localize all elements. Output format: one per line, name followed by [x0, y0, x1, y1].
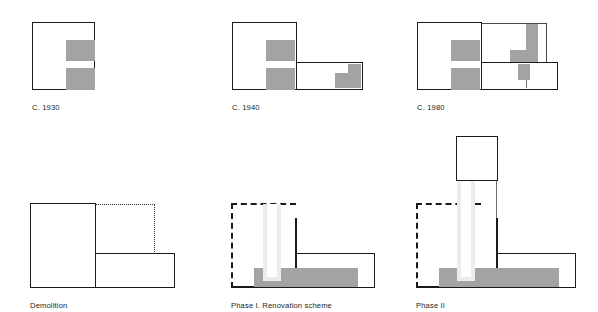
left-block-edge-left	[231, 203, 233, 288]
gray-bar-lower	[266, 68, 295, 90]
light-slot-core	[461, 181, 471, 277]
gray-bar-upper	[66, 40, 95, 61]
panel-caption-c-1980: C. 1980	[417, 104, 445, 112]
lower-wing-gray-stub	[518, 64, 530, 80]
demolished-outline-right	[154, 204, 155, 254]
demolished-outline-top	[95, 204, 155, 205]
panel-phase-2: Phase II	[385, 125, 598, 312]
gray-bar-upper	[451, 40, 480, 61]
remaining-wing-outline	[95, 253, 175, 288]
panel-caption-phase-2: Phase II	[416, 302, 445, 310]
gray-bar-lower	[451, 68, 480, 90]
gray-bar-lower	[66, 68, 95, 90]
panel-caption-c-1940: C. 1940	[232, 104, 260, 112]
panel-phase-1: Phase I. Renovation scheme	[190, 180, 390, 312]
panel-caption-c-1930: C. 1930	[32, 104, 60, 112]
remaining-main-block-outline	[30, 203, 96, 288]
diagram-sheet: C. 1930 C. 1940 C. 1980	[0, 0, 598, 312]
light-slot-core	[267, 204, 277, 277]
panel-caption-demolition: Demolition	[30, 302, 67, 310]
panel-c-1930: C. 1930	[0, 0, 200, 120]
panel-c-1940: C. 1940	[190, 0, 390, 120]
panel-caption-phase-1: Phase I. Renovation scheme	[231, 302, 332, 310]
tower-outline	[456, 136, 498, 181]
panel-c-1980: C. 1980	[385, 0, 598, 120]
left-block-edge-left	[416, 203, 418, 288]
right-wing-white-notch	[335, 64, 348, 73]
panel-demolition: Demolition	[0, 180, 200, 312]
gray-bar-upper	[266, 40, 295, 61]
